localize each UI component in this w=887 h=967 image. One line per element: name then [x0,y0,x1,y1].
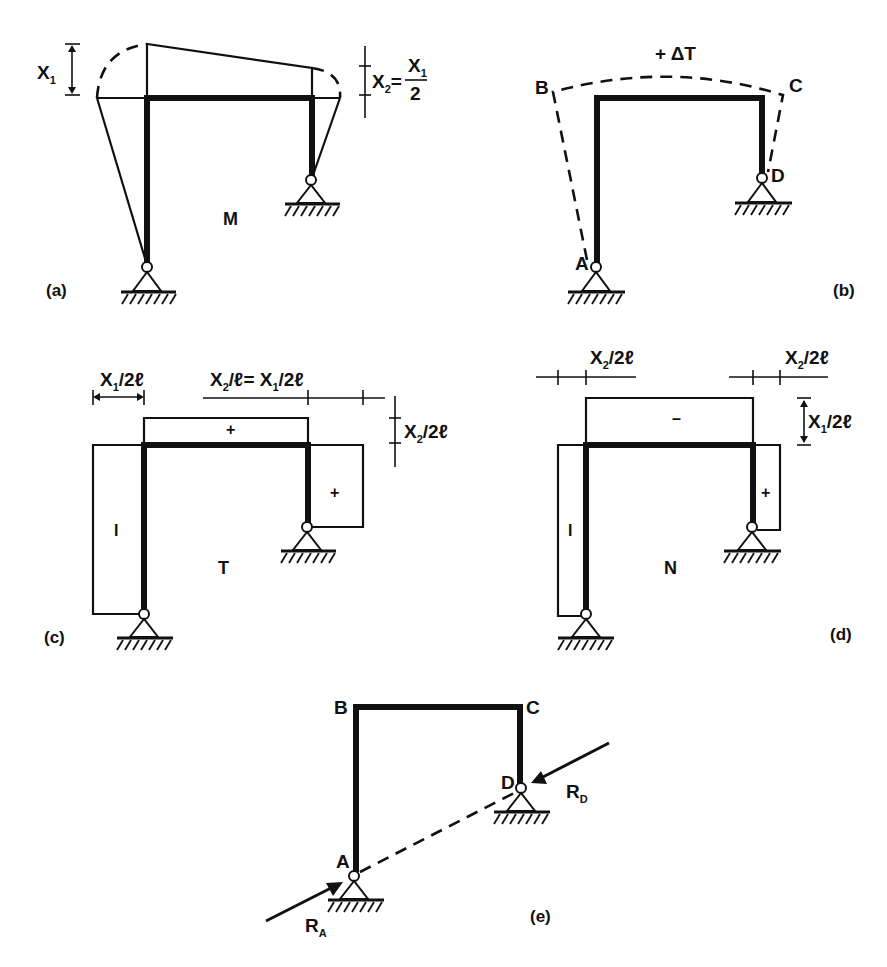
svg-text:X1/2ℓ: X1/2ℓ [100,369,144,393]
frame-diagrams: X1 X2= X1 2 M (a) + ΔT [0,0,887,967]
caption-c: (c) [44,628,65,647]
panel-c: X1/2ℓ X2/ℓ= X1/2ℓ X2/2ℓ + + I T (c) [44,369,448,650]
temperature-load-label: + ΔT [655,43,696,64]
moment-right-curve [312,68,340,98]
dimension-x2-2l: X2/2ℓ [389,396,448,467]
node-c-label: C [526,697,540,718]
caption-d: (d) [830,625,852,644]
shear-left-column-sign: I [114,522,118,539]
pin-support-a [328,871,384,912]
node-b-label: B [535,77,549,98]
dimension-x2-2l-left: X2/2ℓ [536,347,636,385]
frame-structure [144,445,308,612]
moment-beam-trapezoid [147,44,312,98]
svg-text:X1: X1 [408,55,427,79]
svg-text:2: 2 [410,83,421,104]
shear-left-column-block [93,445,144,614]
shear-right-column-sign: + [330,484,339,501]
svg-text:X1/2ℓ: X1/2ℓ [808,411,852,435]
reaction-line-of-action [360,791,518,872]
panel-b: + ΔT B C D A (b) [535,43,855,304]
moment-left-curve [97,44,147,98]
dimension-x1-2l: X1/2ℓ [93,369,144,405]
pin-support-a [117,609,173,650]
reaction-a-label: RA [305,915,327,939]
dimension-x2: X2= X1 2 [359,46,427,118]
pin-support-d [281,522,336,563]
reaction-arrow-d-icon [531,743,609,784]
dimension-x1-2l: X1/2ℓ [797,398,852,445]
axial-right-column-sign: + [761,484,770,501]
axial-left-column-sign: I [568,522,572,539]
deformed-shape [553,77,783,260]
shear-beam-sign: + [226,421,235,438]
frame-structure [147,98,312,265]
moment-left-line [97,98,147,265]
moment-label: M [223,209,238,229]
svg-text:X2/ℓ= X1/2ℓ: X2/ℓ= X1/2ℓ [210,369,304,393]
caption-b: (b) [833,281,855,300]
pin-support-d [724,522,781,563]
axial-label: N [664,558,677,578]
node-b-label: B [334,697,348,718]
pin-support-a [121,262,176,304]
moment-right-line [312,98,340,178]
svg-text:X2/2ℓ: X2/2ℓ [785,347,829,371]
shear-label: T [218,558,229,578]
dimension-x2-l: X2/ℓ= X1/2ℓ [203,369,385,405]
node-c-label: C [789,75,803,96]
svg-text:X2/2ℓ: X2/2ℓ [404,421,448,445]
reaction-d-label: RD [566,781,588,805]
svg-text:X2/2ℓ: X2/2ℓ [590,347,634,371]
node-d-label: D [501,772,515,793]
caption-a: (a) [46,281,67,300]
node-d-label: D [771,165,785,186]
svg-text:X1: X1 [37,62,56,86]
frame-structure [586,445,753,612]
pin-support-d [285,175,340,216]
svg-text:X2=: X2= [372,71,402,95]
dimension-x2-2l-right: X2/2ℓ [729,347,829,385]
panel-d: X2/2ℓ X2/2ℓ X1/2ℓ – + I N (d) [536,347,852,650]
axial-beam-block [586,398,753,445]
node-a-label: A [336,851,350,872]
caption-e: (e) [530,907,551,926]
panel-a: X1 X2= X1 2 M (a) [37,44,427,304]
frame-structure [597,98,762,265]
panel-e: B C D A RA RD (e) [266,697,609,939]
frame-structure [356,707,520,872]
dimension-x1: X1 [37,44,80,95]
node-a-label: A [575,253,589,274]
axial-beam-sign: – [672,410,681,427]
